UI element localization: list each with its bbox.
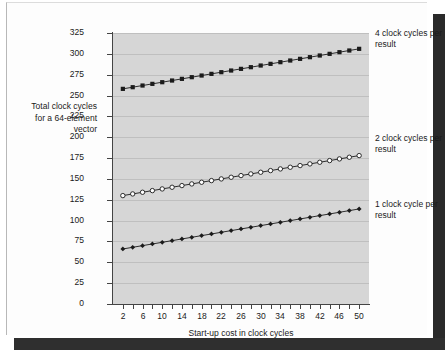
marker-open-circle [150, 188, 154, 192]
y-axis-tick-label: 0 [79, 299, 84, 308]
data-series [121, 153, 362, 197]
page-shadow-right [433, 14, 445, 350]
marker-open-circle [347, 155, 351, 159]
marker-filled-square [337, 50, 341, 54]
x-axis-tick [310, 305, 311, 309]
marker-filled-diamond [288, 218, 293, 223]
marker-filled-diamond [239, 227, 244, 232]
marker-filled-square [180, 77, 184, 81]
marker-filled-square [268, 62, 272, 66]
marker-open-circle [219, 177, 223, 181]
x-axis-tick [172, 305, 173, 309]
marker-open-circle [160, 187, 164, 191]
marker-open-circle [318, 160, 322, 164]
marker-filled-square [140, 83, 144, 87]
x-axis-tick [280, 305, 281, 309]
marker-filled-square [209, 72, 213, 76]
x-axis-tick [251, 305, 252, 309]
marker-open-circle [268, 168, 272, 172]
x-axis-tick [290, 305, 291, 309]
chart-figure: 0255075100125150175200225250275300325 26… [7, 3, 433, 337]
marker-filled-square [190, 75, 194, 79]
y-axis-tick [107, 200, 112, 201]
marker-open-circle [278, 167, 282, 171]
marker-filled-diamond [268, 222, 273, 227]
x-axis-tick-label: 50 [349, 311, 369, 321]
x-axis-tick [152, 305, 153, 309]
x-axis-tick [320, 305, 321, 309]
marker-filled-diamond [130, 245, 135, 250]
x-axis-tick [192, 305, 193, 309]
y-axis-tick [107, 283, 112, 284]
marker-filled-square [328, 52, 332, 56]
marker-filled-diamond [160, 240, 165, 245]
data-series [120, 207, 361, 252]
y-axis-tick-label: 125 [70, 195, 84, 204]
marker-open-circle [258, 170, 262, 174]
x-axis-tick [349, 305, 350, 309]
y-axis-tick [107, 96, 112, 97]
y-axis-tick-label: 75 [75, 236, 84, 245]
marker-open-circle [199, 180, 203, 184]
marker-filled-square [249, 65, 253, 69]
y-axis-tick-label: 250 [70, 91, 84, 100]
series-annotation-4-clock-cycles: 4 clock cycles per result [375, 28, 445, 50]
x-axis-tick-label: 14 [172, 311, 192, 321]
marker-filled-square [239, 67, 243, 71]
x-axis-tick [221, 305, 222, 309]
x-axis-tick-label: 2 [113, 311, 133, 321]
x-axis-tick [162, 305, 163, 309]
marker-open-circle [357, 153, 361, 157]
marker-open-circle [140, 190, 144, 194]
series-annotation-2-clock-cycles: 2 clock cycles per result [375, 133, 445, 155]
marker-filled-square [121, 87, 125, 91]
x-axis-tick [271, 305, 272, 309]
x-axis-tick [211, 305, 212, 309]
y-axis-tick [107, 75, 112, 76]
y-axis-title: Total clock cycles for a 64-element vect… [25, 101, 97, 136]
marker-filled-diamond [229, 228, 234, 233]
y-axis-tick-label: 50 [75, 257, 84, 266]
marker-open-circle [308, 162, 312, 166]
marker-filled-square [219, 70, 223, 74]
marker-open-circle [170, 185, 174, 189]
x-axis-tick-label: 42 [310, 311, 330, 321]
x-axis-tick-label: 26 [231, 311, 251, 321]
marker-filled-diamond [298, 217, 303, 222]
marker-filled-diamond [209, 232, 214, 237]
x-axis-tick-label: 6 [133, 311, 153, 321]
x-axis-tick [330, 305, 331, 309]
marker-open-circle [209, 178, 213, 182]
y-axis-tick [107, 262, 112, 263]
y-axis-tick [107, 33, 112, 34]
marker-filled-square [347, 48, 351, 52]
y-axis-tick [107, 179, 112, 180]
y-axis-tick-label: 150 [70, 174, 84, 183]
y-axis-tick-label: 175 [70, 153, 84, 162]
x-axis-tick [261, 305, 262, 309]
marker-filled-square [357, 47, 361, 51]
x-axis-tick [182, 305, 183, 309]
marker-open-circle [130, 192, 134, 196]
marker-filled-diamond [357, 207, 362, 212]
y-axis-tick-label: 275 [70, 70, 84, 79]
marker-filled-diamond [337, 210, 342, 215]
x-axis-title: Start-up cost in clock cycles [113, 328, 369, 338]
x-axis-tick [359, 305, 360, 309]
marker-filled-square [200, 73, 204, 77]
x-axis-tick [300, 305, 301, 309]
marker-filled-square [170, 78, 174, 82]
marker-open-circle [249, 172, 253, 176]
y-axis-tick-label: 25 [75, 278, 84, 287]
marker-filled-square [318, 53, 322, 57]
x-axis-tick [202, 305, 203, 309]
marker-open-circle [239, 173, 243, 177]
marker-filled-square [160, 80, 164, 84]
y-axis-tick [107, 304, 112, 305]
marker-filled-diamond [170, 238, 175, 243]
marker-open-circle [337, 157, 341, 161]
y-axis-tick-label: 300 [70, 49, 84, 58]
data-series-layer [113, 33, 369, 304]
marker-open-circle [229, 175, 233, 179]
y-axis-tick-label: 100 [70, 216, 84, 225]
